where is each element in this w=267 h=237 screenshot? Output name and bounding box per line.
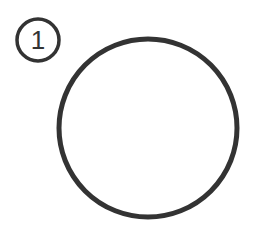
diagram-canvas: 1 [0, 0, 267, 237]
marker-number: 1 [31, 25, 45, 55]
step-marker: 1 [17, 19, 59, 61]
circle-shape [59, 39, 237, 217]
